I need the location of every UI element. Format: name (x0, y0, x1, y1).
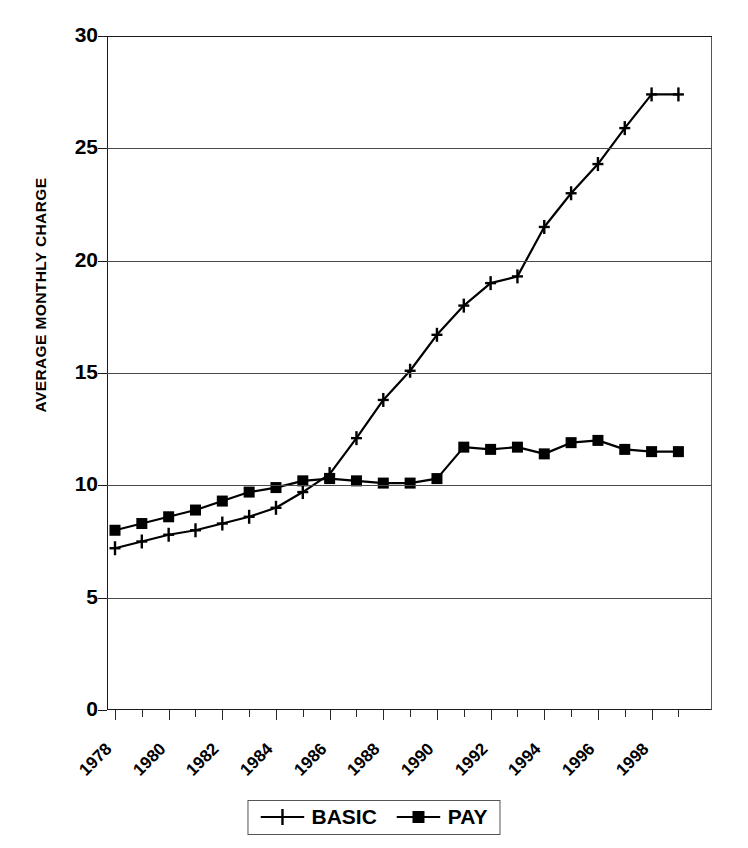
y-axis-tick-label: 20 (56, 248, 98, 272)
x-axis-tick-mark (222, 710, 223, 720)
x-axis-tick-mark (437, 710, 438, 720)
data-point-marker-square (485, 444, 496, 455)
data-point-marker-plus (163, 528, 174, 542)
x-axis-tick-mark (330, 710, 331, 720)
data-point-marker-plus (270, 501, 281, 515)
y-axis-tick-mark (98, 261, 107, 262)
x-axis-tick-mark (303, 710, 304, 717)
y-axis-tick-label: 15 (56, 360, 98, 384)
x-axis-tick-label: 1984 (236, 739, 277, 780)
x-axis-tick-mark (544, 710, 545, 720)
data-point-marker-square (619, 444, 630, 455)
x-axis-tick-mark (383, 710, 384, 720)
y-axis-tick-label: 25 (56, 135, 98, 159)
y-axis-tick-label: 10 (56, 472, 98, 496)
y-axis-tick-label: 30 (56, 23, 98, 47)
y-axis-tick-labels: 051015202530 (50, 0, 98, 848)
legend-item-basic[interactable]: BASIC (260, 805, 376, 829)
x-axis-tick-label: 1996 (558, 739, 599, 780)
gridline (107, 373, 712, 374)
x-axis-tick-label: 1980 (129, 739, 170, 780)
y-axis-tick-mark (98, 598, 107, 599)
x-axis-tick-mark (169, 710, 170, 720)
data-point-marker-square (405, 478, 416, 489)
x-axis-tick-label: 1988 (344, 739, 385, 780)
data-point-marker-square (512, 442, 523, 453)
legend-marker-plus-icon (260, 807, 304, 827)
series-line (115, 94, 678, 548)
plot-area (107, 36, 712, 710)
data-point-marker-square (270, 482, 281, 493)
data-point-marker-plus (190, 523, 201, 537)
data-point-marker-square (324, 473, 335, 484)
data-point-marker-square (566, 437, 577, 448)
x-axis-tick-label: 1990 (397, 739, 438, 780)
x-axis-tick-mark (491, 710, 492, 720)
y-axis-tick-mark (98, 373, 107, 374)
x-axis-tick-mark (142, 710, 143, 717)
data-point-marker-square (458, 442, 469, 453)
x-axis-tick-mark (517, 710, 518, 717)
legend-marker-square-icon (397, 807, 441, 827)
x-axis-tick-mark (195, 710, 196, 717)
x-axis-tick-mark (625, 710, 626, 717)
gridline (107, 261, 712, 262)
data-point-marker-plus (673, 87, 684, 101)
data-point-marker-square (539, 448, 550, 459)
x-axis-tick-mark (249, 710, 250, 717)
gridline (107, 36, 712, 37)
chart-legend: BASICPAY (247, 800, 500, 835)
gridline (107, 485, 712, 486)
y-axis-tick-mark (98, 485, 107, 486)
data-point-marker-plus (110, 541, 121, 555)
x-axis-tick-label: 1992 (451, 739, 492, 780)
legend-item-pay[interactable]: PAY (397, 805, 488, 829)
data-point-marker-square (431, 473, 442, 484)
x-axis-tick-mark (115, 710, 116, 720)
x-axis-tick-mark (464, 710, 465, 717)
data-point-marker-square (190, 505, 201, 516)
gridline (107, 148, 712, 149)
x-axis-tick-label: 1998 (612, 739, 653, 780)
x-axis-tick-mark (571, 710, 572, 717)
data-point-marker-square (378, 478, 389, 489)
y-axis-tick-mark (98, 36, 107, 37)
y-axis-tick-mark (98, 148, 107, 149)
legend-label: BASIC (311, 805, 376, 829)
x-axis-tick-label: 1994 (505, 739, 546, 780)
data-point-marker-square (673, 446, 684, 457)
x-axis-tick-label: 1986 (290, 739, 331, 780)
x-axis-tick-mark (678, 710, 679, 717)
x-axis-tick-mark (598, 710, 599, 720)
data-point-marker-square (136, 518, 147, 529)
data-point-marker-plus (244, 510, 255, 524)
data-point-marker-square (163, 511, 174, 522)
data-point-marker-square (217, 496, 228, 507)
x-axis-tick-mark (652, 710, 653, 720)
data-point-marker-plus (485, 276, 496, 290)
data-point-marker-square (110, 525, 121, 536)
chart-figure: AVERAGE MONTHLY CHARGE 051015202530 1978… (0, 0, 748, 848)
x-axis-tick-mark (356, 710, 357, 717)
data-point-marker-plus (297, 485, 308, 499)
x-axis-tick-label: 1982 (183, 739, 224, 780)
data-point-marker-plus (136, 535, 147, 549)
gridline (107, 598, 712, 599)
legend-label: PAY (448, 805, 488, 829)
data-point-marker-square (592, 435, 603, 446)
x-axis-tick-mark (276, 710, 277, 720)
data-point-marker-square (646, 446, 657, 457)
x-axis-tick-mark (410, 710, 411, 717)
data-point-marker-square (244, 487, 255, 498)
y-axis-tick-label: 0 (56, 697, 98, 721)
y-axis-tick-mark (98, 710, 107, 711)
data-point-marker-plus (217, 517, 228, 531)
y-axis-tick-label: 5 (56, 585, 98, 609)
